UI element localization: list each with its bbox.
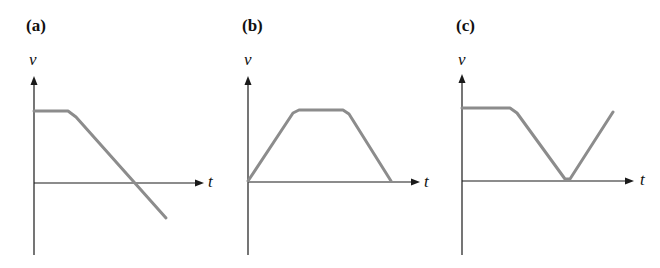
arrow-right-icon (625, 178, 634, 185)
arrow-right-icon (195, 180, 204, 187)
y-axis-c (459, 74, 466, 255)
x-axis-b (248, 179, 420, 186)
velocity-curve-c (462, 108, 613, 179)
arrow-up-icon (245, 76, 252, 85)
panel-b: (b) v t (220, 0, 440, 268)
velocity-curve-b (248, 110, 391, 181)
arrow-right-icon (411, 179, 420, 186)
y-axis-b (245, 76, 252, 255)
x-axis-c (462, 178, 634, 185)
plot-a (0, 0, 220, 268)
arrow-up-icon (459, 74, 466, 83)
x-axis-a (34, 180, 204, 187)
plot-c (440, 0, 660, 268)
panel-a: (a) v t (0, 0, 220, 268)
y-axis-a (31, 76, 38, 255)
panel-c: (c) v t (440, 0, 660, 268)
plot-b (220, 0, 440, 268)
arrow-up-icon (31, 76, 38, 85)
velocity-curve-a (34, 111, 166, 218)
